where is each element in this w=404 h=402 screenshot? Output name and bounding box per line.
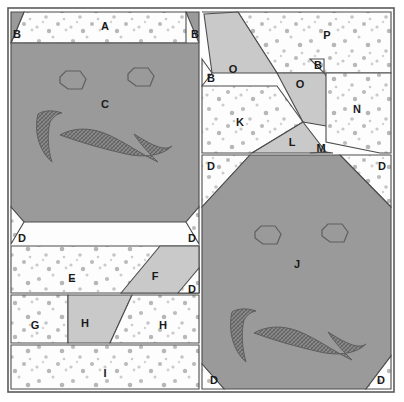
quilt-piece-a bbox=[11, 12, 186, 43]
quilt-piece-j bbox=[202, 155, 391, 389]
pattern-canvas: ABBCDDEFDGHHIPOBOBKNLMDDJDD bbox=[0, 0, 404, 402]
quilt-piece-n bbox=[326, 73, 391, 153]
quilt-piece-i bbox=[11, 345, 199, 389]
quilt-piece-g bbox=[11, 295, 68, 343]
quilt-pattern-figure: ABBCDDEFDGHHIPOBOBKNLMDDJDD bbox=[0, 0, 404, 402]
